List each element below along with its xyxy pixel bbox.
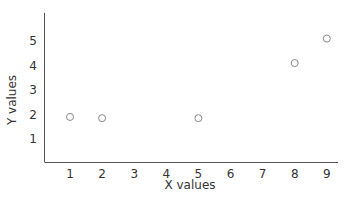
y-tick-label: 5 [29,34,37,48]
x-axis-label: X values [164,178,215,192]
scatter-chart: 123456789 12345 X values Y values [0,0,345,199]
x-tick-label: 8 [291,167,299,181]
data-point-marker [291,60,298,67]
data-point-marker [195,115,202,122]
y-tick-label: 4 [29,59,37,73]
x-tick-label: 6 [227,167,235,181]
x-tick-label: 1 [66,167,74,181]
axes [45,13,339,163]
y-axis-label: Y values [5,75,19,126]
y-tick-label: 1 [29,132,37,146]
x-tick-label: 3 [130,167,138,181]
y-tick-label: 3 [29,83,37,97]
data-point-marker [323,35,330,42]
y-tick-labels: 12345 [29,34,37,146]
y-tick-label: 2 [29,108,37,122]
x-tick-label: 7 [259,167,267,181]
x-tick-label: 2 [98,167,106,181]
data-points [67,35,331,122]
data-point-marker [67,113,74,120]
x-tick-label: 9 [323,167,331,181]
data-point-marker [99,115,106,122]
